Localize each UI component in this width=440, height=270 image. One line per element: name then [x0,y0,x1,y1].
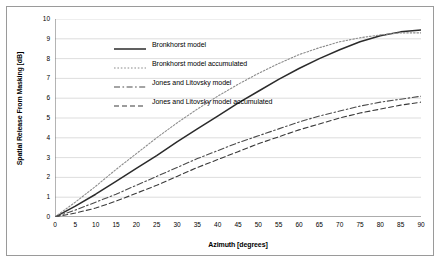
x-axis-title: Azimuth [degrees] [55,241,421,248]
y-tick-label: 4 [30,134,50,141]
x-tick-label: 90 [411,221,431,228]
x-tick-label: 55 [269,221,289,228]
legend-item[interactable]: Jones and Litovsky model [113,73,289,92]
plot-area: 012345678910 051015202530354045505560657… [55,19,421,217]
legend-swatch [113,59,147,69]
legend-label: Jones and Litovsky model [152,79,231,86]
y-tick-label: 10 [30,15,50,22]
x-tick-label: 25 [147,221,167,228]
x-tick-label: 10 [86,221,106,228]
x-tick-label: 35 [187,221,207,228]
x-tick-label: 5 [65,221,85,228]
x-tick-label: 70 [330,221,350,228]
x-tick-label: 65 [309,221,329,228]
legend-swatch [113,78,147,88]
x-tick-label: 80 [370,221,390,228]
y-tick-label: 1 [30,193,50,200]
y-axis-title: Spatial Release From Masking [dB] [16,9,23,209]
x-tick-label: 40 [208,221,228,228]
legend-swatch [113,40,147,50]
x-tick-label: 30 [167,221,187,228]
legend-label: Bronkhorst model [152,41,206,48]
y-tick-label: 2 [30,173,50,180]
y-tick-label: 8 [30,55,50,62]
legend-item[interactable]: Bronkhorst model accumulated [113,54,289,73]
legend-label: Jones and Litovsky model accumulated [152,98,272,105]
chart-legend: Bronkhorst modelBronkhorst model accumul… [113,35,289,111]
legend-item[interactable]: Bronkhorst model [113,35,289,54]
chart-container: Spatial Release From Masking [dB] 012345… [0,0,440,270]
x-tick-label: 15 [106,221,126,228]
x-tick-label: 45 [228,221,248,228]
y-tick-label: 5 [30,114,50,121]
x-tick-label: 20 [126,221,146,228]
x-tick-label: 60 [289,221,309,228]
series-line [55,102,421,217]
legend-item[interactable]: Jones and Litovsky model accumulated [113,92,289,111]
x-tick-label: 85 [391,221,411,228]
y-tick-label: 9 [30,35,50,42]
x-tick-label: 75 [350,221,370,228]
legend-label: Bronkhorst model accumulated [152,60,247,67]
legend-swatch [113,97,147,107]
series-line [55,96,421,217]
x-tick-label: 50 [248,221,268,228]
y-tick-label: 7 [30,74,50,81]
y-tick-label: 3 [30,154,50,161]
chart-plot-frame: Spatial Release From Masking [dB] 012345… [6,6,434,256]
y-tick-label: 0 [30,213,50,220]
x-tick-label: 0 [45,221,65,228]
y-tick-label: 6 [30,94,50,101]
